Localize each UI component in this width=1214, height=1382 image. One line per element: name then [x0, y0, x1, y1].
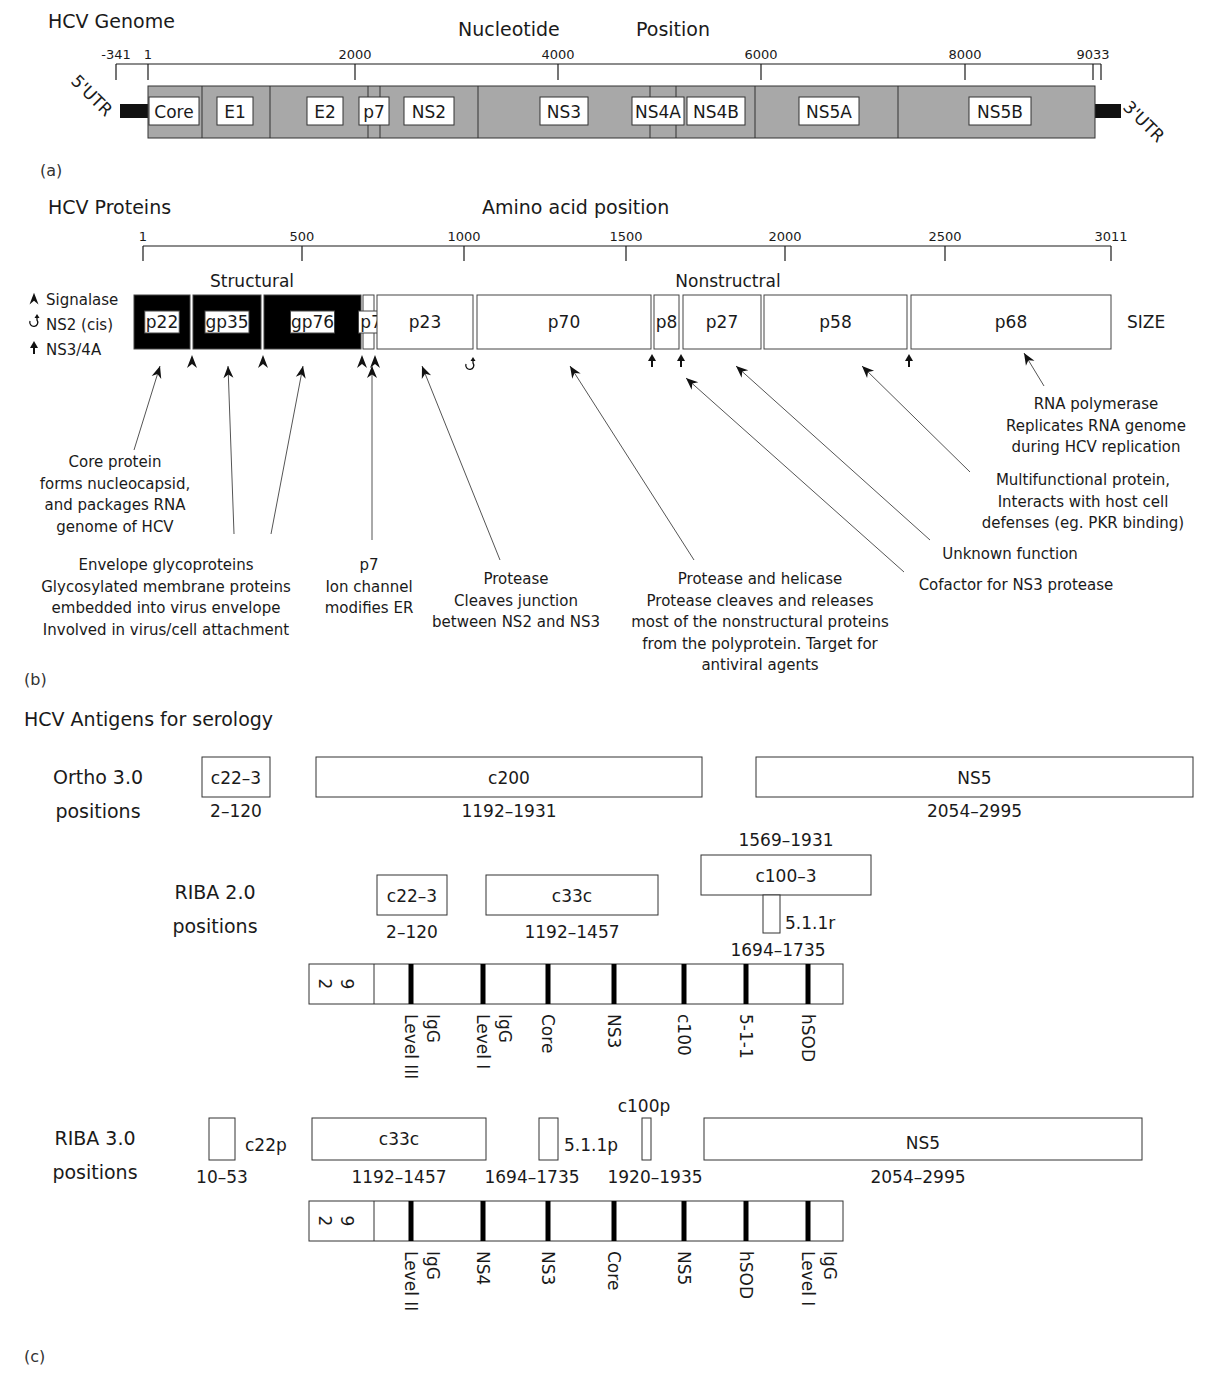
antigen-label: c100–3	[755, 866, 816, 886]
antigen-position: 1569–1931	[738, 830, 833, 850]
band-label: Core	[538, 1014, 558, 1053]
band-label: hSOD	[798, 1014, 818, 1062]
antigen-position: 2–120	[210, 801, 262, 821]
antigen-box-5-1-1p	[539, 1118, 558, 1160]
annotation-line: Multifunctional protein,	[996, 471, 1170, 489]
protein-group-labels: StructuralNonstructral	[210, 271, 781, 291]
axis-tick-label: 1	[144, 47, 152, 62]
protein-label: gp76	[291, 312, 334, 332]
annotation-line: genome of HCV	[56, 518, 174, 536]
group-label: Structural	[210, 271, 294, 291]
strip-band	[806, 1201, 811, 1241]
antigen-position: 2054–2995	[927, 801, 1022, 821]
protein-label: p22	[146, 312, 178, 332]
band-label: NS3	[538, 1251, 558, 1285]
pointer-line	[570, 366, 694, 560]
annotation-line: Protease cleaves and releases	[647, 592, 874, 610]
group-label: Nonstructral	[675, 271, 780, 291]
axis-tick-label: 4000	[541, 47, 574, 62]
band-label: c100	[674, 1014, 694, 1056]
band-label: IgG	[423, 1251, 443, 1280]
antigen-box-c22p	[209, 1118, 235, 1160]
ns3-4a-arrow-icon	[905, 354, 913, 361]
annotation-line: between NS2 and NS3	[432, 613, 600, 631]
segment-label: NS5B	[977, 102, 1023, 122]
protein-label: p68	[995, 312, 1027, 332]
strip-number: 2	[315, 979, 335, 990]
row-label: positions	[55, 800, 140, 822]
panel-b-proteins: HCV Proteins Amino acid position 1500100…	[24, 196, 1186, 689]
ns3-4a-arrow-icon	[30, 341, 38, 348]
segment-label: p7	[363, 102, 385, 122]
annotation-line: Protease	[483, 570, 548, 588]
annotation-line: Ion channel	[325, 578, 412, 596]
row-label: RIBA 2.0	[174, 881, 255, 903]
antigen-label: 5.1.1p	[564, 1135, 618, 1155]
antigen-position: 10–53	[196, 1167, 248, 1187]
axis-tick-label: 2500	[928, 229, 961, 244]
test-strip	[309, 1201, 843, 1241]
annotation-line: Replicates RNA genome	[1006, 417, 1186, 435]
utr3-label: 3'UTR	[1119, 97, 1169, 147]
antigen-label: c100p	[618, 1096, 671, 1116]
strip-number: 9	[337, 1216, 357, 1227]
segment-label: NS3	[547, 102, 581, 122]
ns2-cis-arrowhead	[35, 314, 40, 318]
cleavage-marks	[187, 354, 913, 369]
legend-label: NS3/4A	[46, 341, 102, 359]
band-label: 5-1-1	[736, 1014, 756, 1059]
riba-2-row: RIBA 2.0positionsc22–32–120c33c1192–1457…	[172, 830, 871, 1079]
pointer-line	[736, 366, 930, 540]
segment-label: Core	[154, 102, 193, 122]
segment-label: NS2	[412, 102, 446, 122]
strip-band	[744, 964, 749, 1004]
pointer-line	[862, 366, 970, 472]
annotation-line: Protease and helicase	[678, 570, 842, 588]
riba-3-row: RIBA 3.0positionsc22p10–53c33c1192–14575…	[52, 1096, 1142, 1311]
strip-band	[682, 964, 687, 1004]
hcv-figure: HCV Genome Nucleotide Position -34112000…	[0, 0, 1214, 1382]
axis-title-nucleotide: Nucleotide	[458, 18, 560, 40]
segment-label: NS4A	[635, 102, 681, 122]
antigen-position: 1920–1935	[607, 1167, 702, 1187]
antigen-position: 1192–1457	[351, 1167, 446, 1187]
antigen-box-5-1-1r	[763, 895, 780, 933]
annotation-line: Cleaves junction	[454, 592, 578, 610]
signalase-arrowhead-icon	[30, 293, 39, 305]
segment-label: NS4B	[693, 102, 739, 122]
antigen-label: 5.1.1r	[785, 913, 835, 933]
axis-title-position: Position	[636, 18, 710, 40]
protein-label: p8	[656, 312, 678, 332]
antigen-label: c22p	[245, 1135, 287, 1155]
axis-tick-label: 1000	[447, 229, 480, 244]
antigens-title: HCV Antigens for serology	[24, 708, 273, 730]
annotation-line: Glycosylated membrane proteins	[41, 578, 291, 596]
annotation-line: RNA polymerase	[1034, 395, 1159, 413]
ns3-4a-arrow-icon	[648, 354, 656, 361]
protein-label: p23	[409, 312, 441, 332]
protein-label: p27	[706, 312, 738, 332]
band-label: Level I	[473, 1014, 493, 1069]
annotation-line: forms nucleocapsid,	[40, 475, 191, 493]
nucleotide-axis: -341120004000600080009033	[101, 47, 1109, 80]
strip-band	[481, 1201, 486, 1241]
band-label: NS4	[473, 1251, 493, 1285]
annotation-line: and packages RNA	[45, 496, 187, 514]
axis-tick-label: 3011	[1094, 229, 1127, 244]
strip-number: 2	[315, 1216, 335, 1227]
axis-tick-label: 6000	[744, 47, 777, 62]
antigen-position: 1192–1931	[461, 801, 556, 821]
protein-label: gp35	[205, 312, 248, 332]
annotation-line: p7	[359, 556, 378, 574]
legend-label: Signalase	[46, 291, 118, 309]
antigen-label: c33c	[379, 1129, 419, 1149]
utr5-label: 5'UTR	[67, 71, 117, 121]
row-label: positions	[52, 1161, 137, 1183]
segment-label: NS5A	[806, 102, 852, 122]
antigen-position: 2–120	[386, 922, 438, 942]
amino-acid-axis: 150010001500200025003011	[139, 229, 1128, 261]
panel-label-c: (c)	[24, 1347, 45, 1366]
annotation-line: antiviral agents	[701, 656, 818, 674]
protein-label: p70	[548, 312, 580, 332]
row-label: RIBA 3.0	[54, 1127, 135, 1149]
